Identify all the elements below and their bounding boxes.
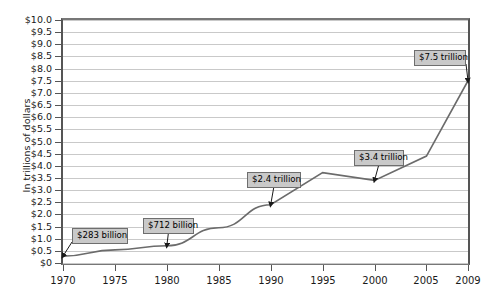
annotation-label: $7.5 trillion <box>414 50 466 66</box>
x-tick-label: 1985 <box>196 275 242 286</box>
y-tick-label: $7.5 <box>0 76 52 86</box>
annotation-arrows <box>63 20 468 263</box>
annotation-label: $283 billion <box>72 228 128 244</box>
x-tick <box>375 265 376 271</box>
x-tick-label: 2009 <box>445 275 491 286</box>
y-tick-label: $7.0 <box>0 88 52 98</box>
x-tick <box>271 265 272 271</box>
x-tick <box>167 265 168 271</box>
y-tick-label: $10.0 <box>0 15 52 25</box>
y-tick-label: $8.5 <box>0 51 52 61</box>
annotation-arrow <box>167 232 169 246</box>
x-tick <box>219 265 220 271</box>
annotation-label: $2.4 trillion <box>247 172 301 188</box>
y-tick-label: $6.5 <box>0 100 52 110</box>
y-tick-label: $3.0 <box>0 185 52 195</box>
annotation-arrow <box>466 64 468 81</box>
y-tick-label: $9.0 <box>0 39 52 49</box>
x-tick-label: 1990 <box>248 275 294 286</box>
x-tick <box>115 265 116 271</box>
x-tick-label: 1970 <box>40 275 86 286</box>
x-tick-label: 2000 <box>352 275 398 286</box>
y-tick-label: $9.5 <box>0 27 52 37</box>
y-tick-label: $8.0 <box>0 64 52 74</box>
x-tick-label: 1980 <box>144 275 190 286</box>
y-tick-label: $1.5 <box>0 222 52 232</box>
x-tick <box>63 265 64 271</box>
x-tick-label: 1995 <box>300 275 346 286</box>
annotation-label: $712 billion <box>143 218 194 234</box>
chart-figure: In trillions of dollars $0$0.5$1.0$1.5$2… <box>0 0 500 300</box>
y-tick-label: $2.0 <box>0 209 52 219</box>
y-tick-label: $0 <box>0 258 52 268</box>
annotation-arrow <box>63 242 72 256</box>
annotation-arrow <box>271 186 274 205</box>
y-tick-label: $3.5 <box>0 173 52 183</box>
y-tick-label: $5.5 <box>0 124 52 134</box>
x-tick <box>426 265 427 271</box>
annotation-arrow <box>375 164 379 180</box>
y-tick-label: $1.0 <box>0 234 52 244</box>
y-tick-label: $6.0 <box>0 112 52 122</box>
x-tick-label: 1975 <box>92 275 138 286</box>
x-tick <box>468 265 469 271</box>
x-tick-label: 2005 <box>403 275 449 286</box>
y-tick-label: $2.5 <box>0 197 52 207</box>
annotation-label: $3.4 trillion <box>354 150 404 166</box>
y-tick-label: $4.0 <box>0 161 52 171</box>
y-tick-label: $4.5 <box>0 149 52 159</box>
gridline <box>63 263 468 264</box>
x-tick <box>323 265 324 271</box>
y-tick-label: $5.0 <box>0 137 52 147</box>
y-tick-label: $0.5 <box>0 246 52 256</box>
